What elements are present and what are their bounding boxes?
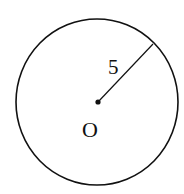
circle-diagram: 5 O	[0, 0, 184, 194]
center-label: O	[82, 117, 98, 142]
center-point	[95, 99, 100, 104]
radius-label: 5	[108, 55, 119, 79]
radius-line	[98, 44, 153, 102]
